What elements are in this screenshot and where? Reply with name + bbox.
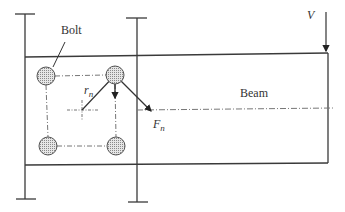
bolted-connection-diagram: Bolt Beam V rn Fn	[0, 0, 345, 212]
bolt-label: Bolt	[61, 23, 82, 37]
bolt-bottom-left	[39, 137, 57, 155]
load-label: V	[307, 8, 316, 22]
beam-label: Beam	[240, 86, 269, 100]
bolt-top-left	[37, 67, 55, 85]
force-label: Fn	[152, 117, 165, 133]
bolts	[37, 66, 125, 155]
bolt-top-right	[106, 66, 124, 84]
bolt-leader-line	[53, 42, 65, 67]
radius-label: rn	[84, 83, 94, 99]
left-column	[15, 14, 36, 199]
bolt-bottom-right	[107, 137, 125, 155]
beam-centerline	[137, 108, 334, 110]
